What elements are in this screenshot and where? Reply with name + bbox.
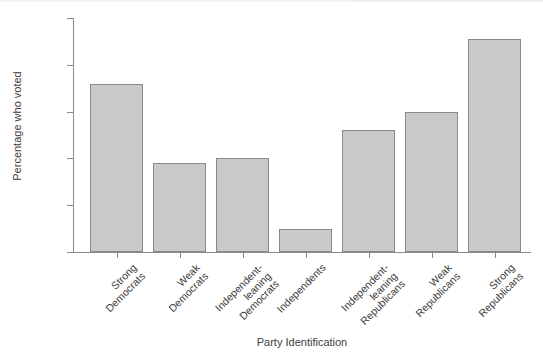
x-axis-tick (306, 252, 307, 258)
y-axis-tick-label-wrap: 100 (0, 12, 73, 23)
x-axis-tick (180, 252, 181, 258)
x-axis-title: Party Identification (73, 336, 531, 348)
bar (342, 130, 395, 252)
x-axis-tick (432, 252, 433, 258)
x-axis-tick (495, 252, 496, 258)
x-axis-tick (117, 252, 118, 258)
x-axis-tick (243, 252, 244, 258)
bar (405, 112, 458, 252)
x-axis-tick (369, 252, 370, 258)
y-axis-tick-label-wrap: 50 (0, 246, 73, 257)
x-axis-line (73, 252, 531, 253)
top-divider (0, 0, 543, 2)
y-axis-title: Percentage who voted (11, 46, 23, 206)
bar (153, 163, 206, 252)
bar-chart: 5060708090100 Percentage who voted Stron… (0, 0, 543, 360)
bar (468, 39, 521, 252)
bar (90, 84, 143, 252)
bar (216, 158, 269, 252)
bar (279, 229, 332, 252)
y-axis-line (73, 18, 74, 252)
